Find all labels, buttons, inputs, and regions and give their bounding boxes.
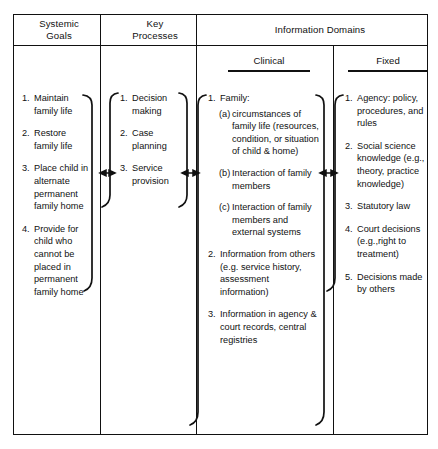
item-number: (b) (219, 167, 230, 180)
item-text: Maintain family life (34, 93, 72, 116)
list-item: 3. Statutory law (345, 200, 427, 213)
header-key-processes-line1: Key (115, 18, 195, 30)
column-divider-1 (100, 14, 101, 435)
header-systemic-goals-line2: Goals (20, 30, 98, 42)
item-number: 2. (208, 248, 216, 261)
subheader-clinical-underline (228, 70, 310, 72)
list-item: 3. Service provision (120, 162, 186, 187)
header-systemic-goals-line1: Systemic (20, 18, 98, 30)
item-text: Place child in alternate permanent famil… (34, 163, 88, 211)
list-item: (c) Interaction of family members and ex… (208, 201, 320, 239)
list-item: 1. Decision making (120, 92, 186, 117)
figure-canvas: Systemic Goals Key Processes Information… (0, 0, 438, 449)
list-item: (a) circumstances of family life (resour… (208, 108, 320, 158)
item-number: (a) (219, 108, 230, 121)
list-item: 2. Social science knowledge (e.g., theor… (345, 140, 427, 190)
list-item: 5. Decisions made by others (345, 271, 427, 296)
column-fixed-list: 1. Agency: policy, procedures, and rules… (345, 92, 427, 296)
subheader-fixed-underline (348, 70, 428, 72)
item-text: Interaction of family members (232, 168, 312, 191)
item-number: 2. (120, 127, 128, 140)
item-text: Service provision (132, 163, 169, 186)
item-number: 4. (22, 223, 30, 236)
list-item: (b) Interaction of family members (208, 167, 320, 192)
header-key-processes: Key Processes (115, 18, 195, 41)
item-number: 1. (120, 92, 128, 105)
item-text: Decision making (132, 93, 167, 116)
item-text: Court decisions (e.g.,right to treatment… (357, 224, 420, 259)
item-number: 2. (345, 140, 353, 153)
list-item: 3. Place child in alternate permanent fa… (22, 162, 92, 212)
item-number: 3. (345, 200, 353, 213)
item-number: 1. (345, 92, 353, 105)
item-text: Interaction of family members and extern… (232, 202, 312, 237)
item-text: Family: (220, 93, 250, 103)
item-number: 3. (120, 162, 128, 175)
item-number: 1. (208, 92, 216, 105)
item-number: 2. (22, 127, 30, 140)
column-clinical-list: 1. Family: (a) circumstances of family l… (208, 92, 320, 346)
list-item: 4. Provide for child who cannot be place… (22, 223, 92, 299)
item-number: 4. (345, 223, 353, 236)
item-number: 3. (22, 162, 30, 175)
header-key-processes-line2: Processes (115, 30, 195, 42)
list-item: 1. Maintain family life (22, 92, 92, 117)
item-number: 3. (208, 308, 216, 321)
item-text: Social science knowledge (e.g., theory, … (357, 141, 424, 189)
item-text: Case planning (132, 128, 167, 151)
subheader-fixed: Fixed (348, 55, 428, 67)
list-item: 2. Restore family life (22, 127, 92, 152)
item-text: Statutory law (357, 201, 410, 211)
list-item: 1. Agency: policy, procedures, and rules (345, 92, 427, 130)
item-text: Restore family life (34, 128, 72, 151)
column-divider-3 (333, 46, 334, 435)
item-text: Provide for child who cannot be placed i… (34, 224, 84, 297)
header-information-domains: Information Domains (215, 24, 425, 36)
column-systemic-goals-list: 1. Maintain family life 2. Restore famil… (22, 92, 92, 298)
item-text: circumstances of family life (resources,… (232, 109, 319, 157)
list-item: 2. Information from others (e.g. service… (208, 248, 320, 298)
list-item: 1. Family: (208, 92, 320, 105)
item-text: Decisions made by others (357, 272, 422, 295)
column-key-processes-list: 1. Decision making 2. Case planning 3. S… (120, 92, 186, 188)
header-systemic-goals: Systemic Goals (20, 18, 98, 41)
list-item: 2. Case planning (120, 127, 186, 152)
item-number: (c) (219, 201, 230, 214)
item-text: Information from others (e.g. service hi… (220, 249, 315, 297)
column-divider-2 (196, 14, 197, 435)
item-text: Agency: policy, procedures, and rules (357, 93, 423, 128)
subheader-clinical: Clinical (228, 55, 310, 67)
item-text: Information in agency & court records, c… (220, 309, 317, 344)
list-item: 3. Information in agency & court records… (208, 308, 320, 346)
item-number: 1. (22, 92, 30, 105)
list-item: 4. Court decisions (e.g.,right to treatm… (345, 223, 427, 261)
item-number: 5. (345, 271, 353, 284)
